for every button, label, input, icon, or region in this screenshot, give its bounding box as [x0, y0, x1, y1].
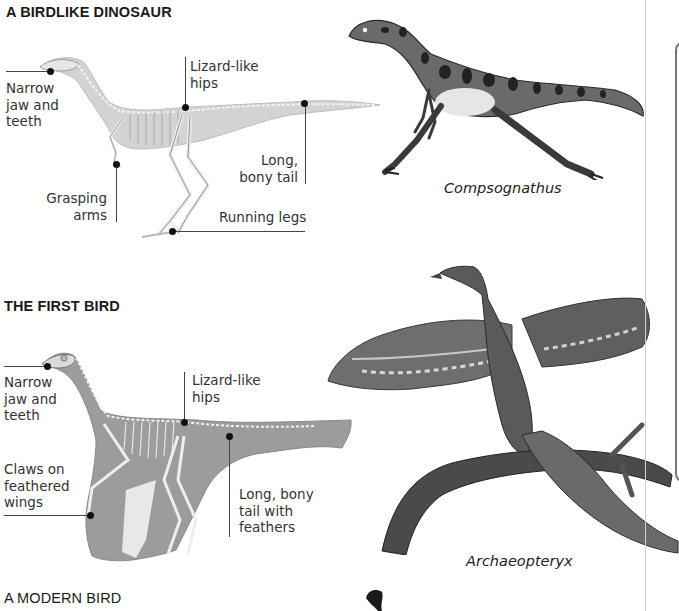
section-title-modern-bird: A MODERN BIRD — [4, 590, 121, 606]
caption-compsognathus: Compsognathus — [444, 180, 562, 196]
tail-leader-line — [305, 104, 306, 184]
first-bird-hips-leader-line — [184, 372, 185, 422]
section-title-birdlike-dinosaur: A BIRDLIKE DINOSAUR — [6, 4, 172, 20]
label-long-bony-tail: Long, bony tail — [220, 152, 298, 185]
page-column-divider — [645, 0, 646, 611]
compsognathus-illustration — [345, 10, 645, 180]
first-bird-label-lizard-like-hips: Lizard-like hips — [192, 372, 261, 405]
label-narrow-jaw: Narrow jaw and teeth — [6, 80, 59, 130]
arms-marker-dot — [113, 161, 120, 168]
first-bird-hips-marker-dot — [181, 419, 188, 426]
legs-marker-dot — [169, 228, 176, 235]
label-grasping-arms: Grasping arms — [30, 190, 107, 223]
first-bird-label-claws-on-wings: Claws on feathered wings — [4, 461, 70, 511]
legs-leader-line — [175, 231, 305, 232]
archaeopteryx-illustration — [322, 255, 679, 555]
section-title-first-bird: THE FIRST BIRD — [4, 298, 120, 314]
label-lizard-like-hips: Lizard-like hips — [190, 58, 259, 91]
label-running-legs: Running legs — [219, 209, 306, 226]
hips-marker-dot — [182, 104, 189, 111]
first-bird-claws-leader-line — [4, 515, 90, 516]
first-bird-jaw-leader-line — [4, 366, 48, 367]
modern-bird-illustration-partial — [362, 588, 392, 611]
tail-marker-dot — [301, 100, 308, 107]
hips-leader-line — [185, 57, 186, 105]
jaw-marker-dot — [47, 68, 54, 75]
arms-leader-line — [116, 166, 117, 222]
first-bird-claws-marker-dot — [87, 512, 94, 519]
first-bird-jaw-marker-dot — [44, 363, 51, 370]
book-page: A BIRDLIKE DINOSAUR Narrow jaw and teeth — [0, 0, 679, 611]
jaw-leader-line — [6, 71, 49, 72]
first-bird-tail-leader-line — [229, 437, 230, 537]
first-bird-tail-marker-dot — [226, 433, 233, 440]
first-bird-label-narrow-jaw: Narrow jaw and teeth — [4, 374, 57, 424]
caption-archaeopteryx: Archaeopteryx — [466, 553, 573, 569]
first-bird-label-long-bony-tail: Long, bony tail with feathers — [239, 486, 314, 536]
sidebar-panel-edge — [675, 42, 679, 482]
